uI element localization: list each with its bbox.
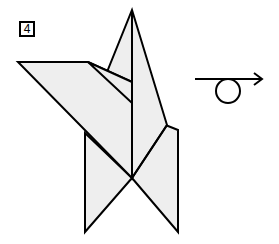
origami-diagram xyxy=(0,0,279,244)
turn-over-icon xyxy=(195,73,262,103)
